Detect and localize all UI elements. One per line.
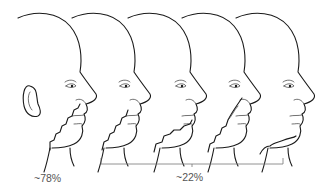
right-percent-label: ~22% — [176, 171, 203, 183]
ear-icon — [23, 86, 40, 117]
head-3 — [128, 13, 207, 172]
head-2 — [72, 13, 151, 172]
head-4 — [182, 13, 261, 172]
head-5 — [236, 13, 315, 172]
nerve-branch-line — [208, 98, 242, 152]
left-percent-label: ~78% — [34, 172, 61, 184]
head-1 — [18, 13, 97, 172]
head-profiles-illustration — [0, 0, 322, 194]
nerve-branch-line — [102, 110, 128, 150]
